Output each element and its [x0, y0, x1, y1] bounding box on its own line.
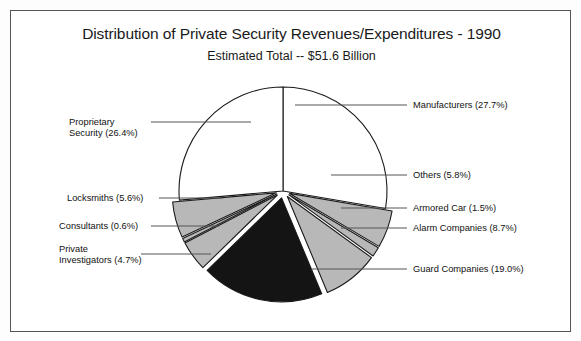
label-others: Others (5.8%) [413, 170, 471, 181]
label-proprietary-security: Proprietary Security (26.4%) [69, 117, 138, 138]
label-locksmiths: Locksmiths (5.6%) [67, 193, 143, 204]
label-manufacturers: Manufacturers (27.7%) [413, 100, 508, 111]
pie-slice-group [173, 87, 392, 302]
label-private-investigators: Private Investigators (4.7%) [59, 244, 142, 265]
chart-frame: Distribution of Private Security Revenue… [10, 10, 571, 332]
label-alarm-companies: Alarm Companies (8.7%) [413, 223, 517, 234]
page-canvas: Distribution of Private Security Revenue… [0, 0, 581, 341]
label-armored-car: Armored Car (1.5%) [413, 203, 496, 214]
label-consultants: Consultants (0.6%) [59, 221, 138, 232]
pie-slice-proprietary-security[interactable] [179, 87, 283, 200]
pie-chart [11, 11, 572, 333]
label-guard-companies: Guard Companies (19.0%) [413, 264, 524, 275]
